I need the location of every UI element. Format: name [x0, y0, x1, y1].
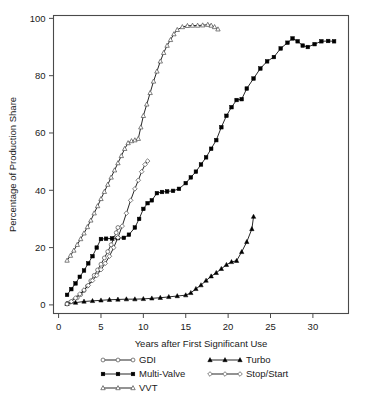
data-point-marker — [251, 214, 255, 218]
data-point-marker — [146, 201, 150, 205]
legend-sample-marker — [131, 358, 135, 362]
data-point-marker — [225, 114, 229, 118]
data-point-marker — [95, 246, 99, 250]
data-point-marker — [224, 262, 228, 266]
legend-sample-marker — [208, 372, 213, 377]
data-point-marker — [137, 217, 141, 221]
data-point-marker — [291, 37, 295, 41]
data-point-marker — [70, 287, 74, 291]
legend-label: VVT — [139, 382, 158, 393]
data-point-marker — [184, 181, 188, 185]
data-point-marker — [265, 60, 269, 64]
data-point-marker — [106, 250, 110, 254]
data-point-marker — [142, 207, 146, 211]
legend-sample-marker — [116, 372, 120, 376]
data-point-marker — [122, 236, 126, 240]
legend-sample-marker — [101, 372, 105, 376]
data-point-marker — [252, 77, 256, 81]
data-point-marker — [91, 254, 95, 258]
data-point-marker — [158, 59, 162, 63]
legend-label: Multi-Valve — [139, 368, 185, 379]
data-point-marker — [99, 262, 103, 266]
data-point-marker — [116, 226, 120, 230]
legend-item-gdi[interactable]: GDI — [101, 354, 156, 365]
x-tick-label: 25 — [265, 321, 276, 332]
data-point-marker — [74, 282, 78, 286]
data-point-marker — [86, 262, 90, 266]
data-point-marker — [250, 227, 254, 231]
data-point-marker — [102, 256, 106, 260]
line-chart-canvas: 051015202530020406080100 Years after Fir… — [0, 0, 374, 401]
chart-legend: GDITurboMulti-ValveStop/StartVVT — [101, 354, 289, 393]
data-point-marker — [219, 266, 223, 270]
legend-label: Turbo — [246, 354, 270, 365]
data-point-marker — [103, 261, 108, 266]
x-tick-label: 10 — [138, 321, 149, 332]
data-point-marker — [194, 286, 198, 290]
y-tick-label: 60 — [35, 127, 46, 138]
legend-item-stop-start[interactable]: Stop/Start — [208, 368, 289, 379]
data-point-marker — [306, 45, 310, 49]
x-tick-label: 0 — [56, 321, 61, 332]
data-point-marker — [128, 198, 133, 203]
data-point-marker — [85, 225, 89, 229]
data-point-marker — [82, 269, 86, 273]
data-point-marker — [189, 176, 193, 180]
legend-item-multi-valve[interactable]: Multi-Valve — [101, 368, 185, 379]
data-point-marker — [286, 41, 290, 45]
data-point-marker — [240, 97, 244, 101]
series-line — [67, 25, 218, 261]
data-point-marker — [332, 39, 336, 43]
x-tick-label: 30 — [308, 321, 319, 332]
data-point-marker — [189, 290, 193, 294]
data-point-marker — [99, 237, 103, 241]
x-tick-label: 5 — [98, 321, 103, 332]
y-tick-label: 80 — [35, 70, 46, 81]
data-point-marker — [245, 87, 249, 91]
legend-sample-marker — [131, 372, 135, 376]
legend-item-vvt[interactable]: VVT — [101, 382, 158, 393]
data-point-marker — [245, 239, 249, 243]
data-point-marker — [162, 50, 166, 54]
legend-item-turbo[interactable]: Turbo — [208, 354, 271, 365]
data-point-marker — [150, 199, 154, 203]
data-point-marker — [165, 190, 169, 194]
data-point-marker — [139, 125, 143, 129]
y-tick-label: 100 — [30, 13, 46, 24]
data-point-marker — [206, 22, 210, 26]
data-point-marker — [82, 231, 86, 235]
series-turbo — [65, 214, 256, 305]
data-point-marker — [95, 204, 99, 208]
data-point-marker — [279, 47, 283, 51]
data-point-marker — [141, 113, 145, 117]
data-point-marker — [209, 147, 213, 151]
data-point-marker — [175, 27, 179, 31]
data-point-marker — [234, 258, 238, 262]
data-point-marker — [320, 39, 324, 43]
y-axis-title: Percentage of Production Share — [7, 97, 18, 232]
axis-ticks — [49, 18, 313, 318]
data-point-marker — [107, 254, 112, 259]
data-point-marker — [148, 90, 152, 94]
x-axis-title: Years after First Significant Use — [135, 338, 268, 349]
data-point-marker — [301, 44, 305, 48]
legend-label: GDI — [139, 354, 156, 365]
series-vvt — [65, 22, 220, 262]
data-point-marker — [133, 226, 137, 230]
legend-label: Stop/Start — [246, 368, 289, 379]
data-point-marker — [136, 136, 140, 140]
chart-figure: 051015202530020406080100 Years after Fir… — [0, 0, 374, 401]
data-point-marker — [194, 170, 198, 174]
data-point-marker — [177, 187, 181, 191]
data-point-marker — [155, 69, 159, 73]
y-tick-label: 40 — [35, 185, 46, 196]
data-point-marker — [78, 275, 82, 279]
data-point-marker — [65, 293, 69, 297]
data-point-marker — [114, 231, 118, 235]
legend-sample-marker — [223, 372, 228, 377]
axis-tick-labels: 051015202530020406080100 — [30, 13, 319, 332]
data-point-marker — [92, 211, 96, 215]
data-point-marker — [112, 168, 116, 172]
data-point-marker — [116, 161, 120, 165]
y-tick-label: 0 — [40, 299, 45, 310]
